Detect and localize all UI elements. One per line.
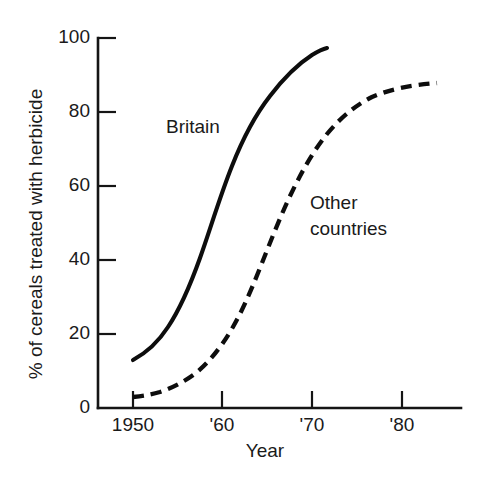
x-tick-label-1950: 1950 — [93, 414, 173, 436]
series-label-other-countries-line2: countries — [310, 216, 387, 242]
y-tick-label-100: 100 — [36, 26, 90, 48]
series-label-other-countries: Other countries — [310, 190, 387, 242]
x-axis-title: Year — [185, 440, 345, 462]
x-tick-label-1980: '80 — [367, 414, 437, 436]
series-label-britain: Britain — [166, 114, 220, 140]
herbicide-usage-chart: 100 80 60 40 20 0 1950 '60 '70 '80 % of … — [0, 0, 488, 488]
y-tick-label-0: 0 — [36, 396, 90, 418]
y-axis-title: % of cereals treated with herbicide — [25, 69, 47, 399]
series-label-other-countries-line1: Other — [310, 190, 387, 216]
x-tick-label-1970: '70 — [277, 414, 347, 436]
x-tick-label-1960: '60 — [187, 414, 257, 436]
series-line-britain — [133, 48, 327, 360]
